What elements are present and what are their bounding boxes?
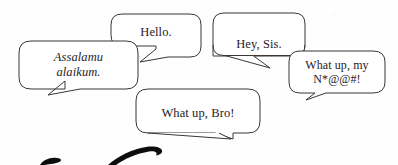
speech-bubble-whatup-bro-text: What up, Bro! xyxy=(135,106,261,121)
speech-bubble-assalamu-text: Assalamu alaikum. xyxy=(18,50,139,79)
handwriting-stroke-left xyxy=(40,158,61,165)
speech-bubble-assalamu: Assalamu alaikum. xyxy=(18,40,139,96)
speech-bubble-whatup-my: What up, my N*@@#! xyxy=(288,50,386,101)
handwriting-strokes xyxy=(0,143,398,165)
handwriting-stroke-right xyxy=(108,147,162,165)
speech-bubble-illustration: Hello. Assalamu alaikum. Hey, Sis. What … xyxy=(0,0,398,165)
speech-bubble-whatup-bro: What up, Bro! xyxy=(135,88,261,140)
speech-bubble-whatup-my-text: What up, my N*@@#! xyxy=(288,59,386,87)
speech-bubble-hello-text: Hello. xyxy=(110,25,202,40)
